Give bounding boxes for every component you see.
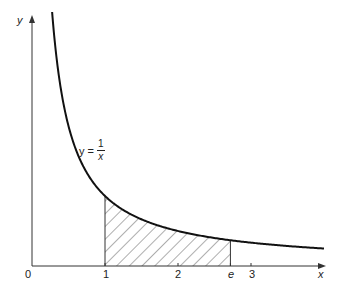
equation-lhs: y = (79, 145, 94, 157)
tick-label-3: 3 (249, 269, 255, 280)
tick-label-e: e (228, 269, 234, 280)
tick-label-2: 2 (175, 269, 181, 280)
y-axis-arrow-icon (29, 15, 35, 23)
equation-numerator: 1 (97, 139, 105, 151)
y-axis-label: y (17, 15, 23, 26)
curve-reciprocal (37, 0, 324, 249)
equation-fraction: 1 x (97, 139, 105, 162)
x-axis-label: x (318, 269, 324, 280)
origin-label: 0 (25, 269, 31, 280)
tick-label-1: 1 (103, 269, 109, 280)
shaded-area (105, 196, 230, 266)
plot-area (0, 0, 342, 291)
curve-equation-label: y = 1 x (79, 139, 105, 162)
equation-denominator: x (98, 151, 103, 162)
